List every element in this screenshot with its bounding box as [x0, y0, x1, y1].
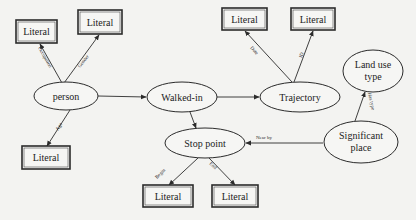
literal-label-date: Literal [231, 14, 258, 25]
literal-label-end: Literal [222, 191, 249, 202]
edge-walked-in-stop-point [190, 112, 196, 128]
edge-label-begin: Begin [154, 167, 166, 179]
literal-label-gender: Literal [87, 17, 114, 28]
literal-label-age: Literal [33, 152, 60, 163]
edge-begin [169, 158, 198, 185]
edge-label-gender: Gender [77, 54, 90, 69]
edge-has-type [355, 92, 365, 121]
node-label-land-use-line2: type [364, 71, 382, 82]
edge-label-date: Date [249, 45, 260, 56]
node-label-person: person [53, 91, 80, 102]
node-label-walked-in: Walked-in [161, 92, 202, 103]
edge-label-end: End [208, 161, 218, 170]
literal-label-id: Literal [300, 14, 327, 25]
node-label-stop-point: Stop point [184, 138, 226, 149]
edge-label-has-type: Has type [367, 92, 376, 111]
edge-date [245, 31, 292, 82]
edge-person-walked-in [98, 96, 146, 97]
edge-label-near-by: Near by [256, 135, 272, 140]
literal-label-begin: Literal [155, 191, 182, 202]
diagram-canvas: Occupation Gender Age Date ID Near by Ha… [0, 0, 416, 220]
edge-label-id: ID [298, 51, 305, 58]
node-label-significant-line1: Significant [339, 130, 383, 141]
literal-label-occupation: Literal [23, 26, 50, 37]
node-label-significant-line2: place [350, 142, 372, 153]
node-label-trajectory: Trajectory [279, 92, 320, 103]
edge-label-occupation: Occupation [37, 46, 53, 69]
node-label-land-use-line1: Land use [355, 59, 392, 70]
